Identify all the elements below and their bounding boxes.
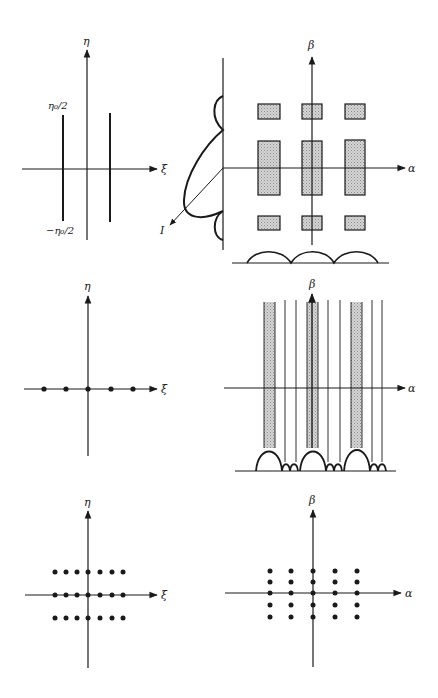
panel-top-left: η ξ η₀/2 −η₀/2 — [22, 35, 168, 240]
eta-label: η — [84, 280, 91, 293]
lower-bound-label: −η₀/2 — [46, 225, 74, 236]
diffraction-figure: η ξ η₀/2 −η₀/2 β α I — [0, 0, 438, 698]
beta-label: β — [307, 39, 314, 52]
panel-middle-left: η ξ — [24, 280, 168, 456]
intensity-profile — [256, 450, 386, 471]
alpha-label: α — [405, 587, 413, 600]
beta-label: β — [308, 278, 315, 291]
eta-label: η — [83, 35, 90, 48]
alpha-label: α — [408, 382, 416, 395]
eta-label: η — [84, 496, 91, 509]
intensity-profile-vertical — [184, 96, 223, 240]
alpha-label: α — [408, 162, 416, 175]
intensity-profile-horizontal — [247, 252, 378, 263]
panel-bottom-left: η ξ — [25, 496, 168, 668]
panel-top-right: β α I — [159, 39, 416, 263]
intensity-label: I — [159, 224, 165, 237]
secondary-fringes — [285, 300, 382, 462]
xi-label: ξ — [161, 383, 168, 396]
panel-bottom-right: β α — [225, 494, 413, 667]
panel-middle-right: β α — [224, 278, 416, 471]
xi-label: ξ — [161, 589, 168, 602]
upper-bound-label: η₀/2 — [48, 100, 68, 111]
beta-label: β — [308, 494, 315, 507]
xi-label: ξ — [161, 163, 168, 176]
main-fringes — [264, 302, 362, 448]
